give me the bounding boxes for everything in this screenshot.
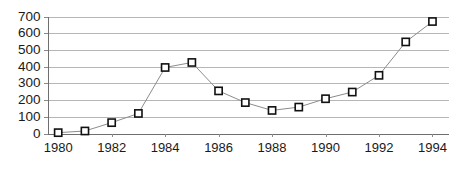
x-tick-label-1994: 1994 bbox=[418, 140, 447, 155]
data-point-1983 bbox=[135, 110, 142, 117]
y-tick-label-200: 200 bbox=[18, 92, 41, 107]
data-point-1990 bbox=[322, 95, 329, 102]
y-axis-tick-labels: 0100200300400500600700 bbox=[18, 9, 41, 141]
y-tick-label-0: 0 bbox=[33, 126, 41, 141]
y-tick-label-300: 300 bbox=[18, 75, 41, 90]
data-point-1988 bbox=[268, 107, 275, 114]
x-axis-tick-labels: 19801982198419861988199019921994 bbox=[44, 140, 447, 155]
x-tick-label-1982: 1982 bbox=[97, 140, 126, 155]
y-tick-label-700: 700 bbox=[18, 9, 41, 24]
x-tick-label-1984: 1984 bbox=[151, 140, 180, 155]
data-point-1994 bbox=[429, 18, 436, 25]
data-point-1992 bbox=[375, 72, 382, 79]
data-point-1989 bbox=[295, 103, 302, 110]
x-tick-label-1990: 1990 bbox=[311, 140, 340, 155]
line-chart: 0100200300400500600700 19801982198419861… bbox=[0, 0, 458, 169]
y-tick-label-100: 100 bbox=[18, 109, 41, 124]
data-point-1982 bbox=[108, 119, 115, 126]
y-tick-label-400: 400 bbox=[18, 59, 41, 74]
data-point-1991 bbox=[349, 88, 356, 95]
data-point-1985 bbox=[188, 59, 195, 66]
data-point-1993 bbox=[402, 38, 409, 45]
data-point-1980 bbox=[55, 129, 62, 136]
data-point-1986 bbox=[215, 87, 222, 94]
y-tick-label-500: 500 bbox=[18, 42, 41, 57]
axes-group bbox=[44, 17, 449, 138]
chart-canvas: 0100200300400500600700 19801982198419861… bbox=[0, 0, 458, 169]
x-tick-label-1986: 1986 bbox=[204, 140, 233, 155]
x-tick-label-1980: 1980 bbox=[44, 140, 73, 155]
x-tick-label-1988: 1988 bbox=[258, 140, 287, 155]
x-tick-label-1992: 1992 bbox=[365, 140, 394, 155]
data-point-1984 bbox=[162, 64, 169, 71]
data-point-1987 bbox=[242, 99, 249, 106]
data-point-markers bbox=[55, 18, 436, 136]
y-tick-label-600: 600 bbox=[18, 25, 41, 40]
data-point-1981 bbox=[81, 127, 88, 134]
